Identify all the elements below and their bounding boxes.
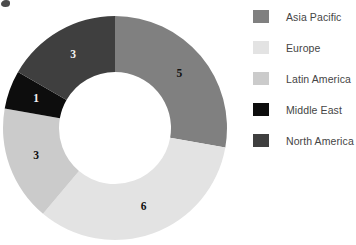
legend-color-swatch (253, 41, 269, 54)
legend-color-swatch (253, 10, 269, 23)
legend-item-label: Latin America (286, 73, 351, 85)
donut-slice-layer (3, 16, 227, 240)
legend-color-swatch (253, 103, 269, 116)
legend-item-latin-america[interactable]: Latin America (253, 72, 356, 85)
slice-value-label: 1 (33, 92, 39, 104)
legend-item-label: Europe (286, 42, 320, 54)
legend-item-europe[interactable]: Europe (253, 41, 356, 54)
chart-legend: Asia PacificEuropeLatin AmericaMiddle Ea… (253, 10, 356, 165)
legend-color-swatch (253, 72, 269, 85)
legend-item-asia-pacific[interactable]: Asia Pacific (253, 10, 356, 23)
slice-value-label: 3 (33, 149, 39, 161)
legend-item-north-america[interactable]: North America (253, 134, 356, 147)
legend-item-label: North America (286, 135, 354, 147)
legend-item-middle-east[interactable]: Middle East (253, 103, 356, 116)
legend-item-label: Asia Pacific (286, 11, 341, 23)
donut-svg: 56313 (0, 0, 232, 245)
slice-value-label: 3 (70, 48, 76, 60)
legend-color-swatch (253, 134, 269, 147)
donut-plot-area: 56313 (0, 0, 232, 245)
slice-value-label: 5 (176, 67, 182, 79)
donut-slice-europe[interactable] (43, 138, 225, 240)
donut-slice-asia-pacific[interactable] (115, 16, 227, 147)
slice-value-label: 6 (141, 200, 147, 212)
donut-chart-figure: 56313 Asia PacificEuropeLatin AmericaMid… (0, 0, 356, 245)
legend-item-label: Middle East (286, 104, 342, 116)
